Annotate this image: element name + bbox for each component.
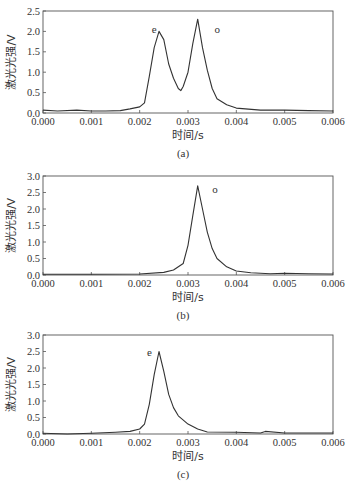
- x-tick-label: 0.002: [128, 437, 152, 448]
- peak-label: e: [147, 346, 152, 358]
- y-tick-label: 3.0: [27, 330, 40, 341]
- peak-label: e: [152, 23, 157, 35]
- x-tick-label: 0.004: [225, 278, 249, 289]
- x-tick-label: 0.001: [80, 278, 104, 289]
- x-tick-label: 0.001: [80, 116, 104, 127]
- y-tick-label: 0.5: [27, 253, 40, 264]
- y-tick-label: 2.5: [27, 6, 40, 17]
- peak-label: o: [215, 23, 221, 35]
- chart-a: 0.0000.0010.0020.0030.0040.0050.0060.00.…: [0, 0, 349, 162]
- y-tick-label: 0.0: [27, 429, 40, 440]
- y-tick-label: 1.5: [27, 46, 40, 57]
- chart-b: 0.0000.0010.0020.0030.0040.0050.0060.00.…: [0, 163, 349, 323]
- y-tick-label: 2.0: [27, 204, 40, 215]
- data-line: [43, 186, 333, 274]
- y-tick-label: 2.5: [27, 346, 40, 357]
- y-tick-label: 1.5: [27, 379, 40, 390]
- x-tick-label: 0.006: [321, 278, 345, 289]
- plot-frame: [43, 11, 333, 113]
- figure-caption: (a): [177, 147, 190, 160]
- y-axis-label: 激光光强/V: [4, 34, 18, 90]
- data-line: [43, 352, 333, 435]
- x-tick-label: 0.002: [128, 116, 152, 127]
- x-tick-label: 0.005: [273, 437, 297, 448]
- y-tick-label: 1.0: [27, 237, 40, 248]
- y-axis-label: 激光光强/V: [4, 356, 18, 412]
- y-tick-label: 1.0: [27, 396, 40, 407]
- x-tick-label: 0.002: [128, 278, 152, 289]
- x-axis-label: 时间/s: [172, 291, 204, 304]
- y-tick-label: 0.0: [27, 270, 40, 281]
- x-tick-label: 0.006: [321, 437, 345, 448]
- x-tick-label: 0.006: [321, 116, 345, 127]
- x-axis-label: 时间/s: [172, 450, 204, 463]
- x-tick-label: 0.005: [273, 278, 297, 289]
- plot-frame: [43, 176, 333, 275]
- y-tick-label: 3.0: [27, 171, 40, 182]
- plot-frame: [43, 335, 333, 434]
- y-axis-label: 激光光强/V: [4, 197, 18, 253]
- figure-caption: (c): [177, 468, 190, 481]
- chart-c: 0.0000.0010.0020.0030.0040.0050.0060.00.…: [0, 321, 349, 486]
- x-tick-label: 0.003: [176, 116, 200, 127]
- x-tick-label: 0.003: [176, 437, 200, 448]
- y-tick-label: 2.5: [27, 187, 40, 198]
- y-tick-label: 1.5: [27, 220, 40, 231]
- y-tick-label: 0.0: [27, 108, 40, 119]
- y-tick-label: 0.5: [27, 87, 40, 98]
- x-tick-label: 0.004: [225, 116, 249, 127]
- x-tick-label: 0.005: [273, 116, 297, 127]
- x-tick-label: 0.004: [225, 437, 249, 448]
- x-tick-label: 0.001: [80, 437, 104, 448]
- x-axis-label: 时间/s: [172, 129, 204, 142]
- peak-label: o: [212, 183, 218, 195]
- y-tick-label: 0.5: [27, 412, 40, 423]
- y-tick-label: 1.0: [27, 67, 40, 78]
- y-tick-label: 2.0: [27, 26, 40, 37]
- x-tick-label: 0.003: [176, 278, 200, 289]
- data-line: [43, 19, 333, 111]
- y-tick-label: 2.0: [27, 363, 40, 374]
